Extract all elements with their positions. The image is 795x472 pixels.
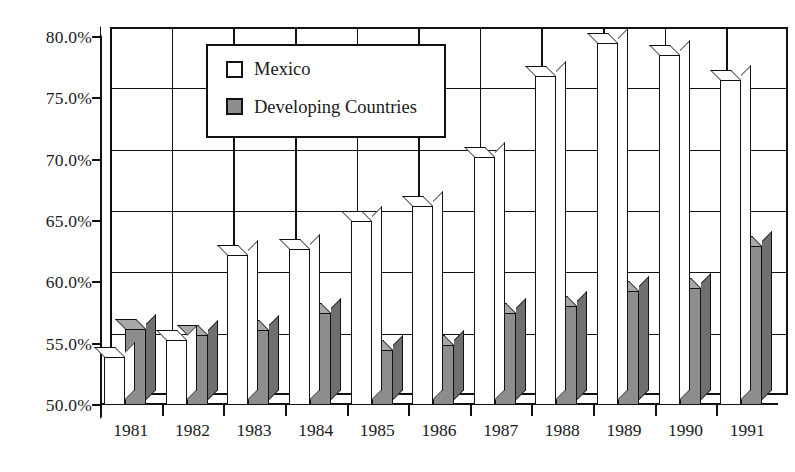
y-axis-tick: 75.0% [0,98,92,119]
bar-side-facet [639,276,649,400]
legend-entry-mexico: Mexico [226,60,444,79]
x-axis-tick-label: 1981 [113,420,148,441]
bar-face-facet [166,340,187,405]
x-axis-tick-mark [347,405,349,416]
bar-mexico-1988 [535,76,556,405]
bar-face-facet [227,255,248,405]
y-axis-tick: 50.0% [0,405,92,426]
x-axis-tick-mark [162,405,164,416]
bar-side-facet [556,61,566,400]
bar-side-facet [495,142,505,400]
y-axis-tick-label: 65.0% [0,211,92,232]
x-axis-tick-mark [223,405,225,416]
bar-side-facet [331,298,341,400]
bar-mexico-1990 [659,55,680,405]
y-axis-tick: 55.0% [0,344,92,365]
x-axis-tick-label: 1982 [175,420,210,441]
legend-label-developing-countries: Developing Countries [254,98,417,117]
bar-side-facet [680,40,690,400]
x-axis-tick-mark [470,405,472,416]
bar-face-facet [535,76,556,405]
y-axis-tick: 65.0% [0,221,92,242]
bar-side-facet [208,320,218,400]
bar-face-facet [597,43,618,405]
bar-side-facet [269,315,279,400]
x-axis-tick-mark [716,405,718,416]
bar-side-facet [516,298,526,400]
x-axis-tick-label: 1984 [298,420,333,441]
bar-mexico-1989 [597,43,618,405]
y-axis-tick: 80.0% [0,37,92,58]
x-axis-tick-mark [285,405,287,416]
x-axis-tick-mark [100,405,102,416]
bar-mexico-1987 [474,157,495,405]
bar-mexico-1986 [412,206,433,405]
legend-entry-developing-countries: Developing Countries [226,98,444,117]
bar-side-facet [310,234,320,400]
chart-legend: Mexico Developing Countries [206,44,446,138]
bar-mexico-1984 [289,249,310,405]
x-axis-tick-label: 1990 [668,420,703,441]
bar-mexico-1985 [351,221,372,405]
x-axis-tick-label: 1986 [422,420,457,441]
bar-face-facet [720,80,741,405]
bar-mexico-1981 [104,357,125,405]
y-axis-tick-label: 55.0% [0,333,92,354]
x-axis-tick-mark [655,405,657,416]
bar-side-facet [577,291,587,400]
y-axis-tick-label: 50.0% [0,395,92,416]
y-axis-tick-label: 60.0% [0,272,92,293]
y-axis-tick: 70.0% [0,160,92,181]
bar-side-facet [393,335,403,400]
x-axis-tick-label: 1989 [606,420,641,441]
bar-side-facet [125,342,135,400]
bar-side-facet [454,330,464,400]
bar-side-facet [618,28,628,400]
bar-mexico-1991 [720,80,741,405]
gridline [110,27,788,28]
legend-label-mexico: Mexico [254,60,311,79]
x-axis-tick-label: 1988 [545,420,580,441]
legend-swatch-developing-countries [226,98,243,115]
y-axis-tick-label: 75.0% [0,88,92,109]
bar-side-facet [372,206,382,400]
bar-side-facet [187,325,197,400]
bar-mexico-1983 [227,255,248,405]
bar-side-facet [762,231,772,400]
y-axis-tick-label: 80.0% [0,27,92,48]
x-axis-tick-mark [531,405,533,416]
x-axis-tick-label: 1987 [483,420,518,441]
bar-face-facet [412,206,433,405]
bar-side-facet [701,273,711,400]
bar-side-facet [741,65,751,400]
bar-face-facet [474,157,495,405]
x-axis-tick-label: 1985 [360,420,395,441]
bar-side-facet [146,314,156,400]
legend-swatch-mexico [226,61,243,78]
bar-face-facet [351,221,372,405]
x-axis-tick-mark [593,405,595,416]
y-axis-tick-label: 70.0% [0,149,92,170]
bar-face-facet [659,55,680,405]
y-axis-tick: 60.0% [0,282,92,303]
bar-side-facet [433,191,443,400]
x-axis-tick-label: 1991 [730,420,765,441]
x-axis-tick-label: 1983 [237,420,272,441]
bar-mexico-1982 [166,340,187,405]
bar-face-facet [289,249,310,405]
bar-side-facet [248,240,258,400]
bar-face-facet [104,357,125,405]
bar-chart: 50.0%55.0%60.0%65.0%70.0%75.0%80.0% 1981… [0,0,795,472]
x-axis-tick-mark [408,405,410,416]
